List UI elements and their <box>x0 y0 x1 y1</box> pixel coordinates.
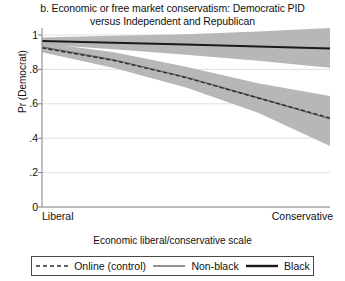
legend-swatch-solid-gray <box>152 262 186 270</box>
chart-title: b. Economic or free market conservatism:… <box>0 2 345 27</box>
chart-title-line-2: versus Independent and Republican <box>0 15 345 28</box>
legend-item-online-control[interactable]: Online (control) <box>35 260 146 272</box>
x-tick-label-conservative: Conservative <box>272 210 333 222</box>
legend-item-non-black[interactable]: Non-black <box>152 260 238 272</box>
legend-label-non-black: Non-black <box>191 260 238 272</box>
y-tick-label-0.8: .8 <box>16 63 38 75</box>
legend-label-black: Black <box>284 260 310 272</box>
legend-label-online-control: Online (control) <box>74 260 146 272</box>
y-tick-label-0.6: .6 <box>16 97 38 109</box>
confidence-bands <box>42 28 330 146</box>
x-tick-label-liberal: Liberal <box>42 210 74 222</box>
y-tick-label-0: 0 <box>16 201 38 213</box>
legend-swatch-dashed <box>35 262 69 270</box>
y-tick-label-0.4: .4 <box>16 132 38 144</box>
y-tick-label-0.2: .2 <box>16 166 38 178</box>
x-axis-label: Economic liberal/conservative scale <box>0 235 345 246</box>
y-tick-label-1: 1 <box>16 29 38 41</box>
chart-figure: b. Economic or free market conservatism:… <box>0 0 345 281</box>
legend-item-black[interactable]: Black <box>245 260 310 272</box>
chart-title-line-1: b. Economic or free market conservatism:… <box>0 2 345 15</box>
legend-swatch-solid-black <box>245 262 279 270</box>
legend: Online (control) Non-black Black <box>31 256 314 276</box>
